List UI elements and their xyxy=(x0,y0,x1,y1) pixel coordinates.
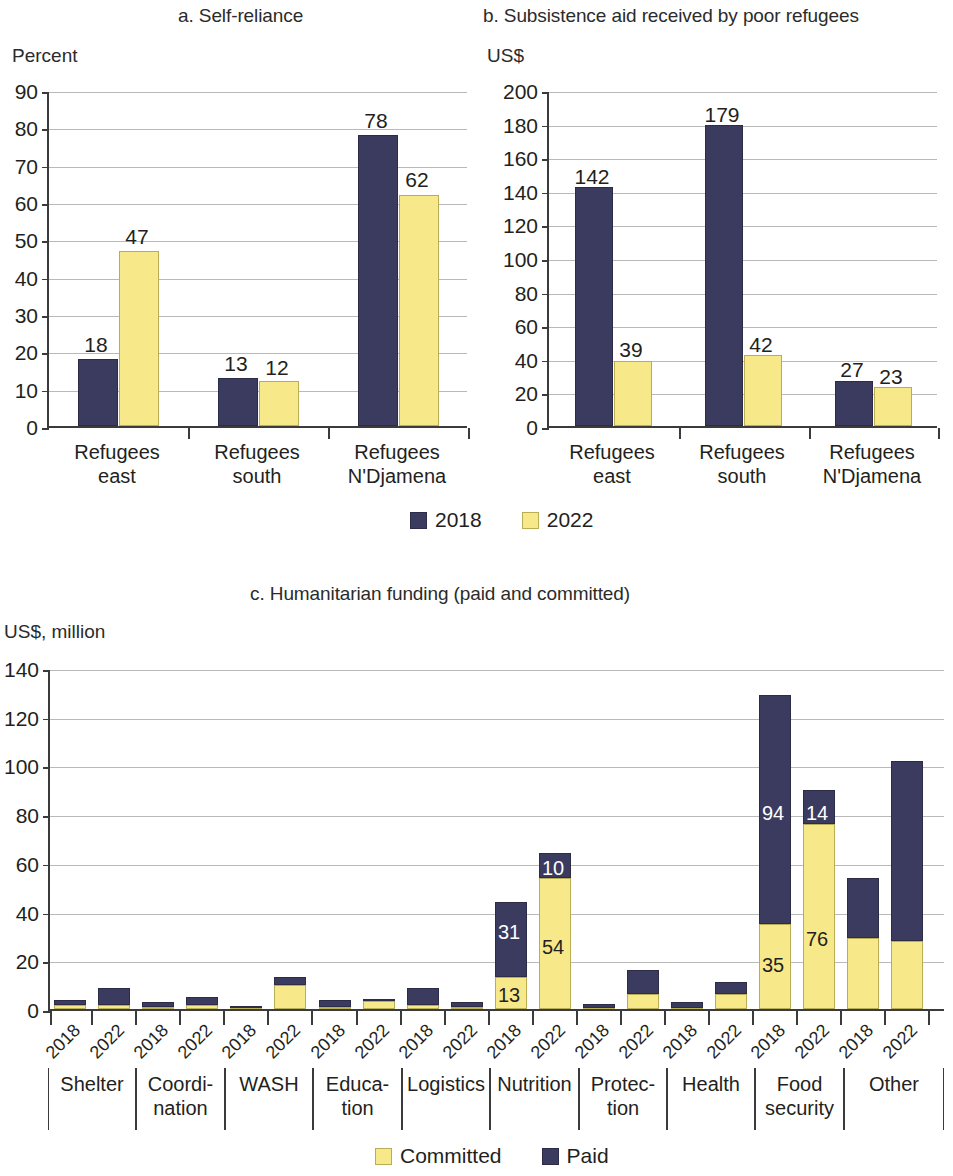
panel-b-y-unit: US$ xyxy=(487,45,524,67)
value-label: 13 xyxy=(224,352,247,376)
category-label-refugees-ndjamena: Refugees N'Djamena xyxy=(823,440,921,489)
tickmark xyxy=(542,159,549,161)
tickmark xyxy=(43,1011,50,1013)
legend-item-2018[interactable]: 2018 xyxy=(410,508,482,532)
legend-item-paid[interactable]: Paid xyxy=(542,1144,609,1168)
tickmark xyxy=(42,316,49,318)
bar-paid-other-2018 xyxy=(847,878,879,939)
y-tick-label: 60 xyxy=(16,853,39,877)
gridline xyxy=(549,92,937,93)
bar-2018-refugees-ndjamena xyxy=(358,135,398,426)
bar-2022-refugees-south xyxy=(259,381,299,426)
sector-label-line: Educa- xyxy=(326,1072,389,1096)
bar-2018-refugees-south xyxy=(705,125,743,426)
category-label-line: Refugees xyxy=(214,441,300,463)
sector-protection: Protec- tion xyxy=(579,1068,667,1130)
category-label-line: Refugees xyxy=(354,441,440,463)
panel-a-plot: 90 80 70 60 50 40 30 20 10 0 xyxy=(47,92,467,428)
legend-label-paid: Paid xyxy=(567,1144,609,1168)
bar-committed-other-2022 xyxy=(891,941,923,1009)
gridline xyxy=(49,167,467,168)
y-tick-label: 30 xyxy=(15,304,38,328)
sector-label-line: tion xyxy=(326,1096,389,1120)
stack-value-food-security-2022-paid: 14 xyxy=(806,802,828,825)
tickmark xyxy=(542,394,549,396)
y-tick-label: 90 xyxy=(15,80,38,104)
bar-committed-shelter-2018 xyxy=(54,1005,86,1009)
category-label-refugees-ndjamena: Refugees N'Djamena xyxy=(348,440,446,489)
y-tick-label: 60 xyxy=(15,192,38,216)
sector-label-line: nation xyxy=(148,1096,214,1120)
bar-paid-education-2022 xyxy=(363,999,395,1001)
y-tick-label: 40 xyxy=(16,902,39,926)
sector-label-line: security xyxy=(765,1096,834,1120)
tickmark xyxy=(43,816,50,818)
tickmark xyxy=(542,327,549,329)
tickmark xyxy=(43,719,50,721)
category-label-line: south xyxy=(718,465,767,487)
sector-coordination: Coordi- nation xyxy=(136,1068,225,1130)
axis-tick-separator xyxy=(620,1011,622,1025)
bar-paid-protection-2018 xyxy=(583,1004,615,1008)
y-tick-label: 200 xyxy=(503,80,538,104)
bar-2018-refugees-east xyxy=(575,187,613,426)
axis-tick-separator xyxy=(135,1011,137,1025)
legend-item-committed[interactable]: Committed xyxy=(375,1144,502,1168)
panel-c-plot: 140 120 100 80 60 40 20 0 xyxy=(48,670,944,1011)
tickmark xyxy=(42,129,49,131)
y-tick-label: 0 xyxy=(27,999,39,1023)
bar-committed-logistics-2018 xyxy=(407,1005,439,1009)
figure-root: a. Self-reliance Percent 90 80 70 60 50 … xyxy=(0,0,953,1176)
tickmark xyxy=(42,391,49,393)
legend-label-2018: 2018 xyxy=(435,508,482,532)
axis-tick-separator xyxy=(223,1011,225,1025)
sector-label-wrap: Educa- tion xyxy=(326,1072,389,1120)
y-tick-label: 120 xyxy=(503,214,538,238)
sector-other: Other xyxy=(844,1068,944,1130)
axis-separator xyxy=(809,428,811,439)
gridline xyxy=(549,126,937,127)
tickmark xyxy=(43,670,50,672)
bar-committed-health-2022 xyxy=(715,994,747,1009)
bar-2022-refugees-east xyxy=(614,361,652,427)
tickmark xyxy=(542,294,549,296)
axis-tick-separator xyxy=(708,1011,710,1025)
y-tick-label: 180 xyxy=(503,114,538,138)
category-label-line: Refugees xyxy=(829,441,915,463)
value-label: 27 xyxy=(840,358,863,382)
legend-swatch-2018-icon xyxy=(410,512,427,529)
value-label: 12 xyxy=(265,356,288,380)
value-label: 62 xyxy=(405,168,428,192)
bar-committed-education-2022 xyxy=(363,1001,395,1010)
y-tick-label: 50 xyxy=(15,229,38,253)
bar-paid-health-2018 xyxy=(671,1002,703,1008)
sector-label-line: Protec- xyxy=(591,1072,655,1096)
stack-value-nutrition-2022-committed: 54 xyxy=(542,936,564,959)
stack-value-food-security-2018-paid: 94 xyxy=(762,802,784,825)
bar-2018-refugees-south xyxy=(218,378,258,427)
sector-education: Educa- tion xyxy=(313,1068,402,1130)
y-tick-label: 70 xyxy=(15,155,38,179)
tickmark xyxy=(43,962,50,964)
value-label: 142 xyxy=(574,165,609,189)
legend-swatch-2022-icon xyxy=(522,512,539,529)
tickmark xyxy=(542,361,549,363)
axis-tick-separator xyxy=(664,1011,666,1025)
y-tick-label: 100 xyxy=(4,755,39,779)
legend-item-2022[interactable]: 2022 xyxy=(522,508,594,532)
y-tick-label: 140 xyxy=(4,658,39,682)
value-label: 179 xyxy=(704,103,739,127)
sector-label-line: Logistics xyxy=(407,1072,485,1096)
sector-nutrition: Nutrition xyxy=(490,1068,579,1130)
tickmark xyxy=(42,353,49,355)
sector-shelter: Shelter xyxy=(48,1068,136,1130)
tickmark xyxy=(43,767,50,769)
sector-label-line: tion xyxy=(591,1096,655,1120)
panel-a-y-unit: Percent xyxy=(12,45,77,67)
sector-label-wrap: Coordi- nation xyxy=(148,1072,214,1120)
gridline xyxy=(50,719,944,720)
tickmark xyxy=(43,865,50,867)
tickmark xyxy=(43,914,50,916)
category-label-refugees-south: Refugees south xyxy=(214,440,300,489)
tickmark xyxy=(42,279,49,281)
